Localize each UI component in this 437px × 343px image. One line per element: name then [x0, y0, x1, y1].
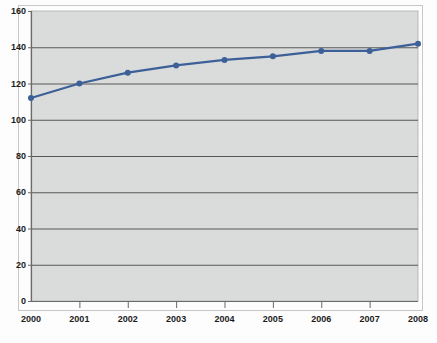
line-chart: 020406080100120140160 200020012002200320… — [0, 0, 437, 343]
data-point-marker — [367, 48, 373, 54]
data-point-marker — [28, 95, 34, 101]
y-tick-label: 40 — [16, 224, 26, 234]
y-tick-label: 80 — [16, 151, 26, 161]
x-tick-label: 2007 — [360, 314, 380, 324]
y-tick-label: 60 — [16, 187, 26, 197]
data-point-marker — [125, 70, 131, 76]
x-tick-label: 2003 — [166, 314, 186, 324]
x-tick-label: 2004 — [214, 314, 234, 324]
x-tick-label: 2006 — [311, 314, 331, 324]
data-point-marker — [270, 53, 276, 59]
x-tick-label: 2001 — [69, 314, 89, 324]
x-tick-label: 2000 — [21, 314, 41, 324]
data-point-marker — [76, 81, 82, 87]
x-axis-tick-labels: 200020012002200320042005200620072008 — [21, 314, 428, 324]
y-tick-label: 0 — [21, 296, 26, 306]
data-point-marker — [415, 41, 421, 47]
data-point-marker — [222, 57, 228, 63]
data-point-marker — [318, 48, 324, 54]
x-tick-label: 2005 — [263, 314, 283, 324]
data-point-marker — [173, 62, 179, 68]
y-tick-label: 140 — [11, 42, 26, 52]
x-tick-label: 2008 — [408, 314, 428, 324]
y-tick-label: 160 — [11, 6, 26, 16]
y-tick-label: 100 — [11, 115, 26, 125]
y-axis-tick-labels: 020406080100120140160 — [11, 6, 31, 306]
chart-container: 020406080100120140160 200020012002200320… — [0, 0, 437, 343]
y-tick-label: 120 — [11, 79, 26, 89]
x-tick-label: 2002 — [118, 314, 138, 324]
y-tick-label: 20 — [16, 260, 26, 270]
